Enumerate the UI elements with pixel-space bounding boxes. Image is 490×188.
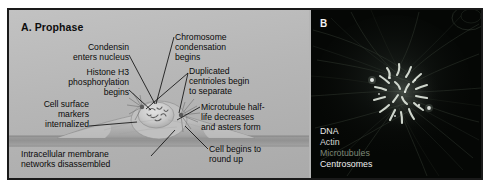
panel-a: A. Prophase Condensin enters nucleus His… bbox=[9, 10, 309, 178]
label-intracellular-membrane: Intracellular membrane networks disassem… bbox=[21, 149, 151, 169]
label-duplicated-centrioles: Duplicated centrioles begin to separate bbox=[189, 66, 289, 97]
leader-cell-surface bbox=[89, 122, 137, 126]
leader-microtubule bbox=[177, 107, 200, 120]
legend-item-actin: Actin bbox=[320, 137, 372, 148]
legend-item-centrosomes: Centrosomes bbox=[320, 159, 372, 170]
label-chromosome-condensation: Chromosome condensation begins bbox=[175, 32, 267, 63]
label-microtubule-half-life: Microtubule half- life decreases and ast… bbox=[201, 102, 305, 133]
leader-intracellular bbox=[151, 130, 175, 156]
panel-b-title: B bbox=[320, 18, 327, 29]
micrograph-legend: DNA Actin Microtubules Centrosomes bbox=[320, 126, 372, 170]
leader-chromosome bbox=[156, 37, 174, 104]
leader-condensin bbox=[129, 55, 155, 104]
leader-centrioles-a bbox=[146, 73, 188, 109]
label-cell-round-up: Cell begins to round up bbox=[209, 144, 299, 164]
label-cell-surface-markers: Cell surface markers internalized bbox=[15, 99, 89, 130]
legend-item-dna: DNA bbox=[320, 126, 372, 137]
legend-item-microtubules: Microtubules bbox=[320, 148, 372, 159]
figure-container: A. Prophase Condensin enters nucleus His… bbox=[7, 8, 483, 180]
label-condensin: Condensin enters nucleus bbox=[33, 42, 129, 62]
label-histone-h3: Histone H3 phosphorylation begins bbox=[23, 67, 129, 98]
panel-a-title: A. Prophase bbox=[21, 21, 83, 33]
panel-b: B DNA Actin Microtubules Centrosomes bbox=[311, 10, 481, 178]
